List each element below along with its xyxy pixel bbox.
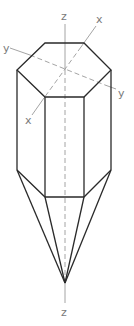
label-y-right: y bbox=[118, 87, 125, 100]
label-x-top: x bbox=[96, 13, 103, 26]
x-axis-top bbox=[81, 26, 96, 47]
x-axis-hidden bbox=[44, 47, 81, 98]
label-z-bottom: z bbox=[61, 306, 67, 319]
label-z-top: z bbox=[61, 10, 67, 23]
crystal-edges bbox=[17, 43, 111, 283]
y-axis-hidden bbox=[30, 55, 105, 85]
axis-labels: z x y y x z bbox=[3, 10, 125, 319]
crystal-diagram: z x y y x z bbox=[0, 0, 134, 326]
axes bbox=[10, 24, 116, 303]
bottom-hexagon-front bbox=[17, 170, 111, 197]
pyramid-edge-left bbox=[17, 170, 65, 283]
label-x-bottom: x bbox=[25, 114, 32, 127]
pyramid-edge-right bbox=[65, 170, 111, 283]
x-axis-bottom bbox=[32, 98, 44, 115]
label-y-left: y bbox=[3, 42, 10, 55]
y-axis-left bbox=[10, 48, 30, 55]
pyramid-edge-front-right bbox=[65, 197, 84, 283]
pyramid-edge-front-left bbox=[45, 197, 65, 283]
